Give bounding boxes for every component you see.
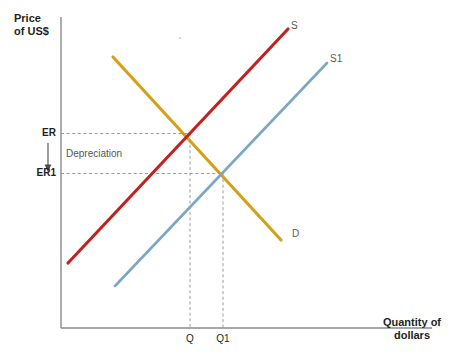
demand-curve-line <box>113 57 281 240</box>
stray-dot-mark <box>179 37 181 39</box>
x-tick-label-q1: Q1 <box>207 333 239 345</box>
supply-curve-line <box>68 29 288 263</box>
supply-curve-label: S <box>291 20 298 32</box>
supply-shifted-curve-line <box>115 63 327 286</box>
x-axis-title: Quantity of dollars <box>374 316 450 342</box>
depreciation-annotation-label: Depreciation <box>66 148 122 160</box>
supply-shifted-curve-label: S1 <box>330 53 342 65</box>
y-tick-label-er1: ER1 <box>0 167 56 179</box>
y-axis-title: Price of US$ <box>14 12 49 38</box>
y-tick-label-er: ER <box>0 127 56 139</box>
demand-curve-label: D <box>292 228 299 240</box>
exchange-rate-depreciation-chart: Price of US$ Quantity of dollars S S1 D … <box>0 0 459 360</box>
chart-plot-area <box>0 0 459 360</box>
x-tick-label-q: Q <box>175 333 205 345</box>
